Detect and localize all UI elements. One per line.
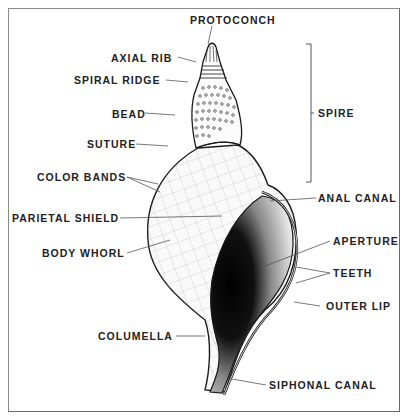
label-axial-rib: AXIAL RIB — [111, 52, 172, 64]
label-parietal-shield: PARIETAL SHIELD — [12, 212, 119, 224]
label-body-whorl: BODY WHORL — [42, 247, 125, 259]
label-columella: COLUMELLA — [98, 330, 173, 342]
label-protoconch: PROTOCONCH — [190, 14, 276, 26]
label-bead: BEAD — [112, 108, 146, 120]
spire-bracket — [306, 44, 314, 182]
label-teeth: TEETH — [333, 267, 372, 279]
shell-illustration — [0, 0, 408, 420]
label-suture: SUTURE — [87, 138, 136, 150]
label-anal-canal: ANAL CANAL — [318, 192, 397, 204]
label-spiral-ridge: SPIRAL RIDGE — [74, 74, 160, 86]
label-aperture: APERTURE — [333, 235, 399, 247]
label-color-bands: COLOR BANDS — [37, 171, 126, 183]
label-outer-lip: OUTER LIP — [326, 300, 391, 312]
label-spire: SPIRE — [318, 107, 355, 119]
spire-shape — [192, 43, 242, 148]
label-siphonal-canal: SIPHONAL CANAL — [269, 379, 377, 391]
